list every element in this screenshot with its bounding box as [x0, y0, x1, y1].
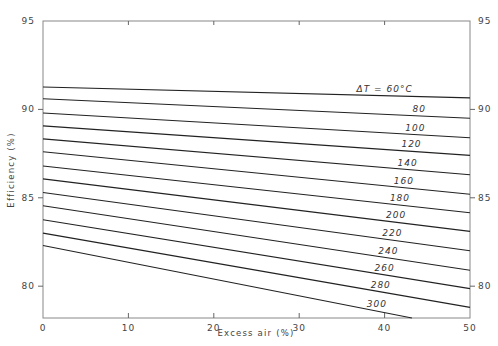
curve-label: 220: [382, 228, 402, 238]
curve-label: 300: [367, 299, 387, 309]
curve-label: 200: [386, 210, 406, 220]
curve-label: 100: [405, 123, 425, 133]
series-line: [43, 99, 470, 118]
y-tick-label-right: 85: [478, 193, 491, 203]
x-axis-title: Excess air (%): [218, 328, 295, 338]
curve-label: 80: [412, 104, 425, 114]
x-tick-label: 10: [122, 323, 135, 333]
curve-label: 160: [394, 176, 414, 186]
curve-label: 120: [401, 139, 421, 149]
curve-label: ΔT = 60°C: [356, 84, 413, 94]
x-tick-label: 40: [378, 323, 391, 333]
efficiency-chart: 010203040508085909580859095 ΔT = 60°C801…: [0, 0, 498, 346]
series-line: [43, 179, 470, 232]
x-tick-label: 50: [463, 323, 476, 333]
y-tick-label: 95: [22, 16, 35, 26]
y-tick-label: 80: [22, 281, 35, 291]
y-tick-label-right: 90: [478, 104, 491, 114]
y-tick-label: 85: [22, 193, 35, 203]
curve-label: 280: [371, 280, 391, 290]
series-line: [43, 233, 470, 307]
series-line: [43, 246, 412, 318]
curve-label: 180: [390, 193, 410, 203]
y-tick-label-right: 80: [478, 281, 491, 291]
curve-label: 240: [378, 246, 398, 256]
axis-ticks: 010203040508085909580859095: [22, 16, 492, 333]
series-line: [43, 220, 470, 289]
curve-label: 140: [398, 158, 418, 168]
curve-label: 260: [375, 263, 395, 273]
x-tick-label: 0: [40, 323, 47, 333]
y-tick-label: 90: [22, 104, 35, 114]
y-tick-label-right: 95: [478, 16, 491, 26]
y-axis-title: Efficiency (%): [6, 132, 16, 207]
